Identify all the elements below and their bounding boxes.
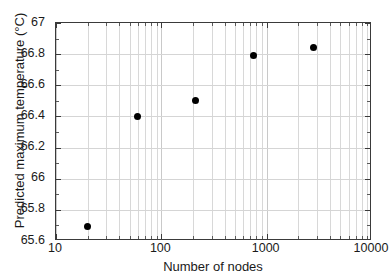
tick-x: [212, 236, 213, 239]
tick-x: [157, 236, 158, 239]
tick-y-right-minor: [367, 163, 370, 164]
gridline-x-minor: [317, 23, 318, 239]
tick-x: [267, 234, 268, 239]
gridline-x-minor: [119, 23, 120, 239]
tick-x-top: [225, 23, 226, 26]
tick-x-top: [243, 23, 244, 26]
tick-y-right: [365, 23, 370, 24]
gridline-x-minor: [212, 23, 213, 239]
tick-x: [356, 236, 357, 239]
tick-x: [193, 236, 194, 239]
tick-x-top: [151, 23, 152, 26]
y-tick-label: 67: [31, 16, 45, 29]
tick-y: [56, 116, 61, 117]
tick-y-minor: [56, 39, 59, 40]
tick-y-right: [365, 116, 370, 117]
tick-x-top: [106, 23, 107, 26]
x-tick-label: 100: [150, 242, 171, 255]
tick-y-right: [365, 85, 370, 86]
tick-x-top: [317, 23, 318, 26]
tick-x-top: [157, 23, 158, 26]
gridline-x-minor: [298, 23, 299, 239]
gridline-y-major: [56, 210, 370, 211]
data-point: [310, 44, 317, 51]
gridline-x-minor: [225, 23, 226, 239]
gridline-x-minor: [262, 23, 263, 239]
y-axis-title: Predicted maximum temperature (°C): [12, 6, 27, 236]
tick-x: [367, 236, 368, 239]
tick-x: [56, 234, 57, 239]
x-axis-tick-labels: 10100100010000: [55, 242, 371, 260]
chart-figure: 65.665.86666.266.466.666.867 10100100010…: [0, 0, 390, 280]
tick-x: [151, 236, 152, 239]
data-point: [192, 97, 199, 104]
tick-x: [119, 236, 120, 239]
tick-x: [330, 236, 331, 239]
tick-y-minor: [56, 70, 59, 71]
gridline-x-minor: [130, 23, 131, 239]
gridline-x-minor: [138, 23, 139, 239]
tick-y-right: [365, 148, 370, 149]
tick-x-top: [330, 23, 331, 26]
tick-y-right-minor: [367, 132, 370, 133]
tick-y-right-minor: [367, 70, 370, 71]
tick-y-right-minor: [367, 194, 370, 195]
tick-y-right: [365, 54, 370, 55]
tick-x-top: [145, 23, 146, 26]
tick-x-top: [119, 23, 120, 26]
tick-x: [298, 236, 299, 239]
tick-y-right-minor: [367, 39, 370, 40]
plot-area: [55, 22, 371, 240]
tick-y: [56, 210, 61, 211]
tick-x-top: [362, 23, 363, 26]
gridline-x-minor: [356, 23, 357, 239]
tick-x-top: [262, 23, 263, 26]
tick-x-top: [56, 23, 57, 28]
tick-x-top: [367, 23, 368, 26]
tick-x: [349, 236, 350, 239]
gridline-x-major: [56, 23, 57, 239]
tick-y-minor: [56, 163, 59, 164]
tick-x: [262, 236, 263, 239]
tick-x-top: [161, 23, 162, 28]
tick-x-top: [267, 23, 268, 28]
tick-x: [225, 236, 226, 239]
tick-y: [56, 85, 61, 86]
tick-x: [362, 236, 363, 239]
tick-y: [56, 23, 61, 24]
tick-x-top: [235, 23, 236, 26]
tick-x-top: [349, 23, 350, 26]
tick-y-minor: [56, 225, 59, 226]
data-points-layer: [56, 23, 370, 239]
tick-y: [56, 179, 61, 180]
gridline-y-major: [56, 179, 370, 180]
data-point: [250, 52, 257, 59]
tick-x: [88, 236, 89, 239]
tick-y-minor: [56, 132, 59, 133]
data-point: [134, 113, 141, 120]
tick-x-top: [340, 23, 341, 26]
axis-tick-marks: [56, 23, 370, 239]
data-point: [84, 223, 91, 230]
tick-y: [56, 54, 61, 55]
tick-x: [130, 236, 131, 239]
x-tick-label: 1000: [252, 242, 280, 255]
gridline-x-minor: [250, 23, 251, 239]
tick-x: [340, 236, 341, 239]
gridline-x-minor: [330, 23, 331, 239]
gridline-x-minor: [193, 23, 194, 239]
tick-x: [138, 236, 139, 239]
tick-x-top: [130, 23, 131, 26]
tick-x-top: [138, 23, 139, 26]
tick-x-top: [250, 23, 251, 26]
gridline-x-minor: [362, 23, 363, 239]
tick-y-right: [365, 179, 370, 180]
gridline-x-minor: [340, 23, 341, 239]
tick-x-top: [356, 23, 357, 26]
tick-y: [56, 148, 61, 149]
tick-x-top: [256, 23, 257, 26]
x-tick-label: 10000: [354, 242, 389, 255]
gridline-x-minor: [235, 23, 236, 239]
gridline-x-major: [267, 23, 268, 239]
tick-x-top: [88, 23, 89, 26]
